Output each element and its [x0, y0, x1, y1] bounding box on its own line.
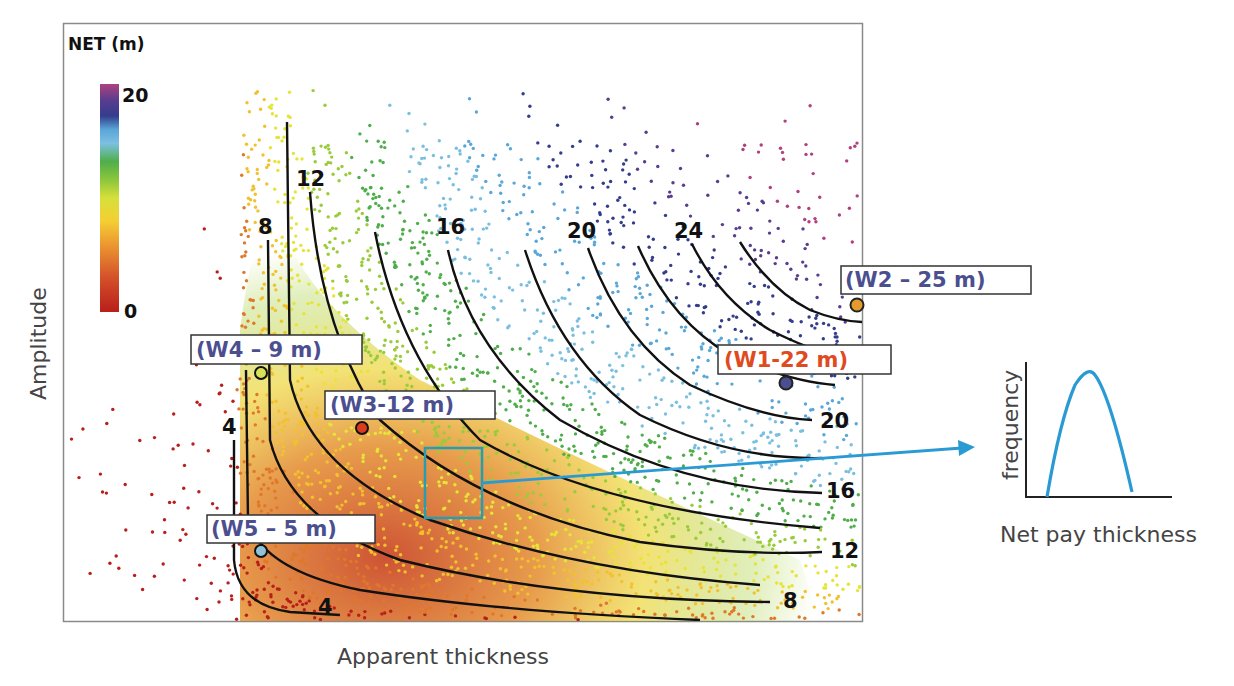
colorbar-min-label: 0 [124, 300, 137, 322]
contour-label-4-bottom: 4 [318, 595, 333, 619]
colorbar-gradient [100, 84, 119, 312]
well-w3-marker [356, 422, 368, 434]
x-axis-label: Apparent thickness [337, 644, 549, 669]
inset-y-axis-label: frequency [998, 370, 1023, 480]
colorbar-title: NET (m) [68, 34, 145, 54]
well-w2-label: (W2 – 25 m) [845, 268, 986, 292]
contour-label-4-left: 4 [222, 415, 237, 439]
contour-label-12-right: 12 [830, 539, 859, 563]
colorbar-max-label: 20 [122, 84, 148, 106]
contour-label-24-top: 24 [674, 219, 703, 243]
well-w5-marker [255, 545, 267, 557]
y-axis-label: Amplitude [26, 287, 51, 400]
main-plot: 8 12 16 20 24 20 16 12 8 4 4 NET (m) 20 … [26, 24, 1031, 670]
well-w2-marker [851, 299, 864, 312]
inset-plot: frequency Net pay thickness [998, 362, 1197, 547]
contour-label-8-right: 8 [783, 589, 798, 613]
inset-x-axis-label: Net pay thickness [1000, 522, 1197, 547]
contour-label-20-right: 20 [820, 409, 849, 433]
well-w4-label: (W4 – 9 m) [196, 338, 322, 362]
arrow-head-icon [958, 440, 975, 456]
inset-distribution-curve [1047, 372, 1132, 497]
well-w3-label: (W3-12 m) [330, 393, 454, 417]
contour-label-20-top: 20 [567, 219, 596, 243]
contour-label-8-top: 8 [258, 215, 273, 239]
well-w1-marker [780, 377, 793, 390]
figure: 8 12 16 20 24 20 16 12 8 4 4 NET (m) 20 … [0, 0, 1234, 686]
contour-label-16-top: 16 [436, 215, 465, 239]
well-w5-label: (W5 – 5 m) [211, 517, 337, 541]
well-w2: (W2 – 25 m) [841, 266, 1031, 312]
contour-label-12-top: 12 [296, 167, 325, 191]
well-w1-label: (W1-22 m) [724, 348, 848, 372]
contour-label-16-right: 16 [826, 479, 855, 503]
well-w4-marker [255, 367, 267, 379]
